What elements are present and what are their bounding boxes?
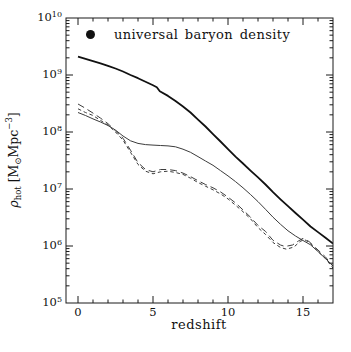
curve-short-dashed [78, 109, 333, 268]
y-axis-label-exponent: −3 [4, 117, 14, 130]
y-axis-label-unit: Mpc [6, 130, 21, 158]
y-axis-label: ρhot [M⊙Mpc−3] [5, 112, 22, 207]
figure: 1010109108107106105051015 universal bary… [0, 0, 351, 352]
y-axis-label-subscript: hot [13, 186, 23, 200]
legend-marker-filled-circle-icon [86, 30, 95, 39]
y-axis-label-bracket-close: ] [6, 112, 21, 117]
legend: universal baryon density [86, 27, 290, 42]
chart-canvas [0, 0, 351, 352]
y-axis-label-bracket: [M [6, 165, 21, 187]
legend-label: universal baryon density [114, 27, 290, 42]
curve-long-dashed [78, 104, 333, 266]
curve-thin-solid [78, 113, 333, 266]
y-axis-label-rho: ρ [6, 200, 21, 207]
curves [78, 57, 333, 269]
plot-border [66, 18, 333, 303]
y-axis-label-sun-symbol: ⊙ [13, 158, 23, 165]
curve-thick-solid [78, 57, 333, 244]
x-axis-label: redshift [171, 317, 226, 332]
